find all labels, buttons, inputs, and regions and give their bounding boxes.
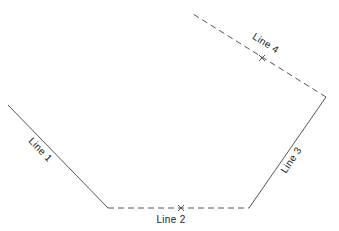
line-3 bbox=[249, 97, 326, 208]
line-4-label: Line 4 bbox=[251, 31, 282, 56]
line-1-label: Line 1 bbox=[26, 135, 54, 164]
diagram-canvas: Line 1 Line 2 Line 3 Line 4 bbox=[0, 0, 339, 231]
line-2-label: Line 2 bbox=[156, 214, 185, 225]
line-1 bbox=[8, 105, 108, 208]
polyline-diagram: Line 1 Line 2 Line 3 Line 4 bbox=[0, 0, 339, 231]
